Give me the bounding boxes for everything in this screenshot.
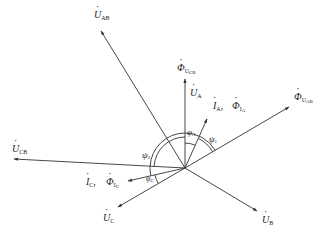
phasor-diagram	[0, 0, 321, 233]
arc-phi-a	[185, 143, 195, 145]
vector-u-cb	[14, 159, 185, 168]
arc-psi-2-outer	[150, 133, 185, 166]
angle-phi-c: φC	[146, 175, 154, 183]
label-phi-ia: ΦIA	[232, 101, 245, 113]
angle-psi-1: ψ1	[209, 135, 217, 144]
vector-u-ab	[101, 31, 185, 168]
label-u-c: UC	[103, 213, 114, 224]
label-i-a: IA,	[213, 101, 223, 112]
angle-phi-a: φA	[187, 128, 196, 137]
label-u-ab: UAB	[94, 10, 110, 21]
label-phi-uab: ΦUAB	[294, 92, 313, 104]
arc-psi-2-inner	[154, 137, 185, 166]
label-u-a: UA	[190, 88, 202, 99]
vector-phi-uab	[185, 107, 289, 168]
vector-u-b	[185, 168, 257, 211]
label-phi-ic: ΦIC	[106, 177, 119, 189]
label-u-b: UB	[262, 215, 273, 226]
label-phi-ucb: ΦUCB	[177, 63, 196, 75]
label-u-cb: UCB	[12, 144, 27, 155]
arc-phi-c	[155, 175, 158, 184]
angle-psi-2: ψ2	[142, 151, 150, 160]
vector-u-c	[118, 168, 185, 207]
label-i-c: IC,	[86, 177, 96, 188]
